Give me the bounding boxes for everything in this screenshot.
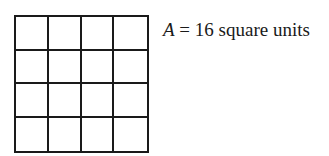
grid-cell: [16, 84, 49, 118]
grid-cell: [82, 51, 115, 85]
unit-square-grid: [14, 15, 149, 153]
area-label: A = 16 square units: [163, 19, 310, 41]
grid-cell: [114, 118, 147, 152]
equals-sign: =: [175, 19, 195, 40]
grid-cell: [114, 84, 147, 118]
area-units: square units: [214, 19, 310, 40]
grid-cell: [49, 118, 82, 152]
grid-cell: [16, 118, 49, 152]
grid-cell: [16, 51, 49, 85]
grid-cell: [82, 118, 115, 152]
grid-cell: [49, 84, 82, 118]
grid-cell: [49, 17, 82, 51]
grid-cell: [82, 84, 115, 118]
area-variable: A: [163, 19, 175, 40]
grid-cell: [49, 51, 82, 85]
grid-cell: [114, 17, 147, 51]
area-value: 16: [195, 19, 214, 40]
grid-cell: [16, 17, 49, 51]
grid-cell: [114, 51, 147, 85]
grid-cell: [82, 17, 115, 51]
